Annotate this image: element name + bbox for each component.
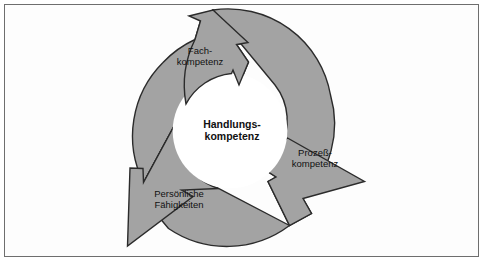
cycle-diagram <box>0 0 485 273</box>
figure-container: Handlungs- kompetenz Fach- kompetenz Pro… <box>0 0 485 273</box>
